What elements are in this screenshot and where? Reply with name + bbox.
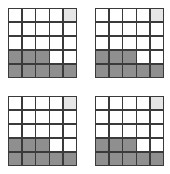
grid-cell — [151, 65, 163, 77]
grid-cell — [36, 139, 48, 151]
grid-cell — [50, 139, 62, 151]
grid-cell — [96, 23, 108, 35]
grid-cell — [96, 65, 108, 77]
grid-cell — [64, 153, 76, 165]
grid-cell — [36, 23, 48, 35]
grid-cell — [50, 97, 62, 109]
grid-cell — [64, 23, 76, 35]
grid-cell — [64, 9, 76, 21]
grid-top-left — [8, 8, 77, 78]
grid-cell — [151, 51, 163, 63]
grid-cell — [23, 97, 35, 109]
grid-cell — [36, 9, 48, 21]
grid-cell — [36, 153, 48, 165]
grid-cell — [64, 97, 76, 109]
grid-cell — [151, 125, 163, 137]
grid-cell — [23, 23, 35, 35]
grid-cell — [151, 111, 163, 123]
grid-cell — [50, 51, 62, 63]
grid-cell — [123, 111, 135, 123]
grid-cell — [23, 125, 35, 137]
grid-top-right — [95, 8, 164, 78]
grid-cell — [64, 139, 76, 151]
grid-cell — [137, 51, 149, 63]
grid-cell — [137, 9, 149, 21]
grid-cell — [137, 23, 149, 35]
grid-cell — [23, 111, 35, 123]
grid-cell — [9, 23, 21, 35]
grid-bottom-left — [8, 96, 77, 166]
grid-cell — [123, 65, 135, 77]
grid-cell — [9, 125, 21, 137]
grid-cell — [123, 153, 135, 165]
grid-cell — [96, 97, 108, 109]
grid-cell — [110, 23, 122, 35]
grid-cell — [123, 23, 135, 35]
grid-cell — [137, 37, 149, 49]
grid-cell — [96, 153, 108, 165]
grid-cell — [50, 125, 62, 137]
grid-cell — [9, 139, 21, 151]
grid-cell — [123, 51, 135, 63]
grid-bottom-right — [95, 96, 164, 166]
grid-cell — [110, 9, 122, 21]
grid-cell — [36, 65, 48, 77]
grid-cell — [23, 51, 35, 63]
grid-cell — [9, 111, 21, 123]
grid-cell — [64, 125, 76, 137]
grid-cell — [151, 153, 163, 165]
grid-cell — [96, 51, 108, 63]
grid-cell — [110, 51, 122, 63]
grid-cell — [151, 37, 163, 49]
grid-cell — [96, 125, 108, 137]
grid-cell — [50, 9, 62, 21]
grid-cell — [110, 153, 122, 165]
grid-cell — [23, 9, 35, 21]
grid-cell — [9, 51, 21, 63]
grid-cell — [137, 111, 149, 123]
grid-cell — [123, 9, 135, 21]
grid-cell — [9, 37, 21, 49]
grid-cell — [9, 9, 21, 21]
grid-cell — [137, 139, 149, 151]
grid-cell — [50, 153, 62, 165]
grid-cell — [64, 37, 76, 49]
grid-cell — [96, 9, 108, 21]
grid-cell — [137, 125, 149, 137]
grid-cell — [96, 37, 108, 49]
grid-cell — [36, 37, 48, 49]
grid-cell — [110, 125, 122, 137]
grid-cell — [23, 153, 35, 165]
grid-cell — [137, 153, 149, 165]
grid-cell — [36, 51, 48, 63]
grid-cell — [9, 153, 21, 165]
grid-cell — [50, 111, 62, 123]
grid-cell — [110, 111, 122, 123]
grid-cell — [151, 97, 163, 109]
grid-cell — [64, 51, 76, 63]
grid-cell — [137, 97, 149, 109]
grid-cell — [50, 65, 62, 77]
grid-cell — [9, 65, 21, 77]
grid-cell — [110, 97, 122, 109]
grid-cell — [123, 37, 135, 49]
grid-cell — [123, 125, 135, 137]
grid-cell — [96, 111, 108, 123]
grid-cell — [23, 139, 35, 151]
grid-cell — [151, 9, 163, 21]
grid-cell — [36, 111, 48, 123]
grid-cell — [123, 139, 135, 151]
grid-cell — [36, 97, 48, 109]
grid-cell — [23, 37, 35, 49]
grid-cell — [50, 37, 62, 49]
grid-cell — [151, 23, 163, 35]
grid-cell — [137, 65, 149, 77]
grid-cell — [23, 65, 35, 77]
grid-cell — [110, 37, 122, 49]
grid-cell — [64, 111, 76, 123]
grid-cell — [151, 139, 163, 151]
grid-cell — [110, 139, 122, 151]
grid-cell — [36, 125, 48, 137]
grid-cell — [123, 97, 135, 109]
grid-cell — [96, 139, 108, 151]
